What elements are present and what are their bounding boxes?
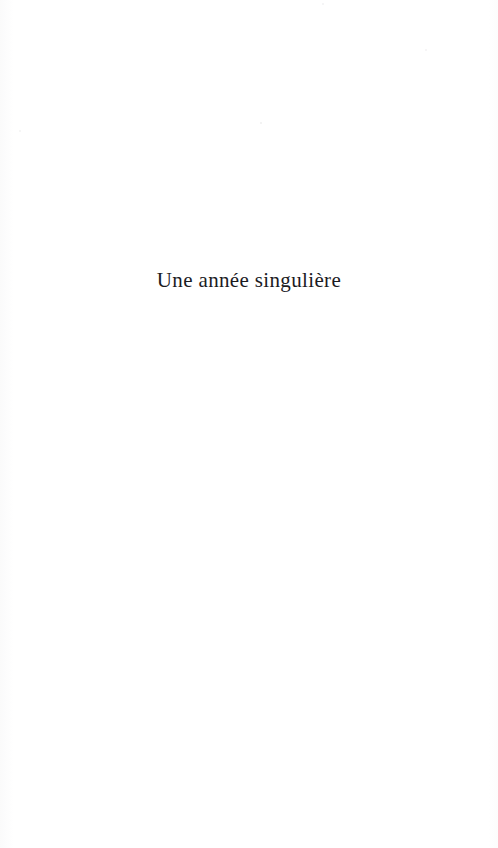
scan-edge-tint-left: [0, 0, 14, 848]
scan-speckle: [425, 49, 427, 51]
scan-edge-tint-right: [488, 0, 498, 848]
part-title-block: Une année singulière: [0, 268, 498, 294]
scan-speckle: [322, 3, 324, 5]
scanned-page: Une année singulière: [0, 0, 498, 848]
scan-speckle: [19, 130, 21, 132]
part-title: Une année singulière: [157, 268, 341, 294]
scan-speckle: [260, 122, 262, 124]
